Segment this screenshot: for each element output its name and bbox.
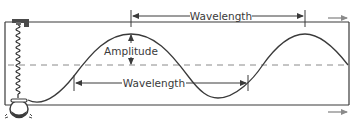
amplitude-indicator: Amplitude: [104, 35, 158, 64]
wavelength-top-indicator: Wavelength: [131, 10, 305, 27]
spring-icon: [16, 25, 20, 98]
clamp-icon: [12, 19, 29, 27]
wavelength-top-label: Wavelength: [190, 10, 252, 22]
wavelength-bottom-indicator: Wavelength: [74, 75, 248, 91]
wave-curve: [28, 34, 348, 102]
weight-icon: [5, 99, 32, 118]
wave-diagram: Wavelength Wavelength Amplitude: [0, 0, 355, 124]
wavelength-bottom-label: Wavelength: [123, 77, 185, 89]
amplitude-label: Amplitude: [104, 45, 158, 57]
